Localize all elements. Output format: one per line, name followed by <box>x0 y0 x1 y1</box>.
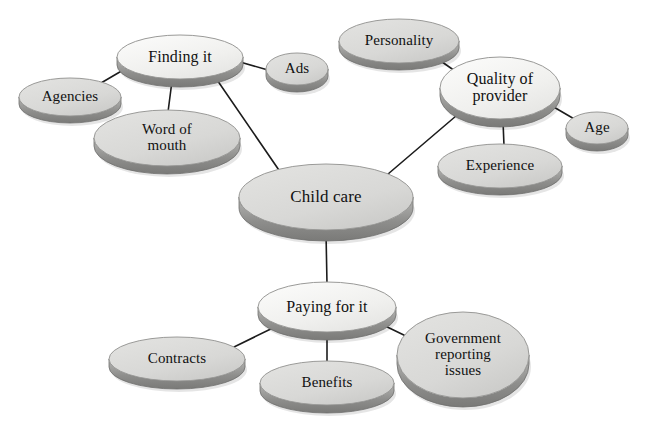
node-age[interactable] <box>566 112 630 154</box>
node-face <box>397 312 529 398</box>
node-face <box>440 57 560 119</box>
node-face <box>260 361 394 405</box>
node-paying-for-it[interactable] <box>258 282 398 343</box>
node-personality[interactable] <box>339 19 461 73</box>
concept-map-canvas: Child careFinding itAgenciesWord of mout… <box>0 0 650 427</box>
node-finding-it[interactable] <box>117 35 245 90</box>
node-face <box>339 19 459 63</box>
node-face <box>566 112 628 144</box>
node-contracts[interactable] <box>109 337 247 392</box>
node-face <box>117 35 243 79</box>
node-agencies[interactable] <box>19 78 123 126</box>
node-quality-of-provider[interactable] <box>440 57 562 130</box>
node-shape-layer <box>19 19 630 416</box>
node-government-reporting-issues[interactable] <box>397 312 531 410</box>
node-benefits[interactable] <box>260 361 396 416</box>
concept-map-svg <box>0 0 650 427</box>
node-word-of-mouth[interactable] <box>94 110 242 177</box>
node-face <box>109 337 245 381</box>
node-face <box>94 110 240 166</box>
node-face <box>266 53 328 85</box>
node-face <box>438 144 562 188</box>
node-experience[interactable] <box>438 144 564 198</box>
node-child-care[interactable] <box>239 164 415 244</box>
node-face <box>239 164 413 230</box>
node-face <box>19 78 121 116</box>
node-ads[interactable] <box>266 53 330 95</box>
node-face <box>258 282 396 332</box>
